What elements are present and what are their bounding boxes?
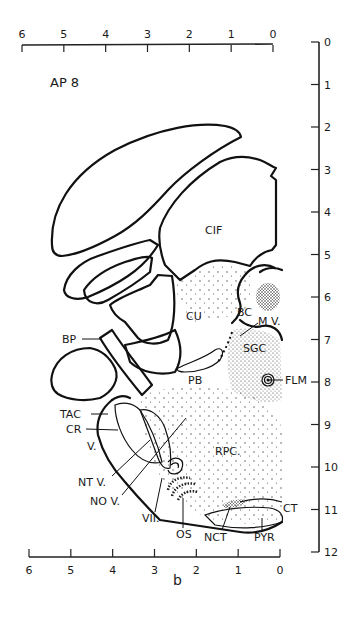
label-nov: NO V. (90, 495, 120, 508)
right-scale: 0123456789101112 (311, 36, 338, 559)
label-pb: PB (188, 374, 202, 387)
label-vii: VII. (142, 512, 160, 525)
label-cu: CU (186, 310, 202, 323)
label-bc: BC (237, 306, 252, 319)
right-scale-tick-label: 1 (324, 79, 331, 92)
right-scale-tick-label: 4 (324, 206, 331, 219)
label-os: OS (176, 528, 192, 541)
label-rpc: RPC. (215, 445, 240, 458)
right-scale-tick-label: 3 (324, 164, 331, 177)
label-v: V. (87, 440, 97, 453)
leader-cr (86, 429, 118, 430)
bottom-scale-tick-label: 2 (193, 564, 200, 577)
label-bp: BP (62, 333, 77, 346)
flocculus-lobe (51, 348, 116, 400)
right-scale-tick-label: 6 (324, 291, 331, 304)
right-scale-tick-label: 12 (324, 546, 338, 559)
folium-lower (125, 330, 180, 374)
bottom-scale-tick-label: 3 (151, 564, 158, 577)
right-scale-tick-label: 9 (324, 419, 331, 432)
bottom-scale-tick-label: 0 (277, 564, 284, 577)
region-sgc (228, 328, 283, 401)
top-scale-tick-label: 1 (228, 28, 235, 41)
bottom-scale-tick-label: 1 (235, 564, 242, 577)
label-ntv: NT V. (78, 476, 106, 489)
bottom-scale-tick-label: 6 (26, 564, 33, 577)
right-scale-tick-label: 10 (324, 461, 338, 474)
bottom-scale-tick-label: 4 (109, 564, 116, 577)
label-cr: CR (66, 423, 82, 436)
label-mv: M V. (258, 315, 281, 328)
brainstem-top-notch (112, 396, 130, 400)
right-scale-tick-label: 2 (324, 121, 331, 134)
label-flm: FLM (285, 374, 307, 387)
bottom-scale-tick-label: 5 (67, 564, 74, 577)
label-cif: CIF (205, 224, 222, 237)
top-scale-tick-label: 5 (60, 28, 67, 41)
right-scale-tick-label: 8 (324, 376, 331, 389)
section-label: AP 8 (50, 75, 79, 90)
label-nct: NCT (204, 531, 227, 544)
top-scale-tick-label: 6 (19, 28, 26, 41)
top-scale-tick-label: 0 (270, 28, 277, 41)
top-scale-tick-label: 3 (144, 28, 151, 41)
label-tac: TAC (59, 408, 81, 421)
region-cif (159, 157, 276, 280)
label-ct: CT (283, 502, 298, 515)
right-scale-tick-label: 7 (324, 334, 331, 347)
right-scale-tick-label: 11 (324, 504, 338, 517)
region-rpc (140, 387, 282, 524)
top-scale-tick-label: 2 (186, 28, 193, 41)
label-sgc: SGC (243, 342, 267, 355)
leader-vii (155, 478, 162, 512)
folium-stalk (110, 275, 174, 344)
label-pyr: PYR (254, 531, 275, 544)
leader-ntv (112, 440, 150, 476)
right-scale-tick-label: 5 (324, 249, 331, 262)
top-scale-axis (22, 44, 273, 45)
figure-caption: b (173, 572, 182, 588)
region-pb (177, 349, 222, 372)
brain-atlas-section: 6543210 0123456789101112 6543210 AP 8 CI… (0, 0, 360, 619)
right-scale-tick-label: 0 (324, 36, 331, 49)
folium-1 (64, 240, 158, 299)
bottom-scale: 6543210 (26, 549, 284, 577)
top-scale-tick-label: 4 (102, 28, 109, 41)
top-scale: 6543210 (19, 28, 277, 52)
bc-nucleus (256, 283, 280, 311)
